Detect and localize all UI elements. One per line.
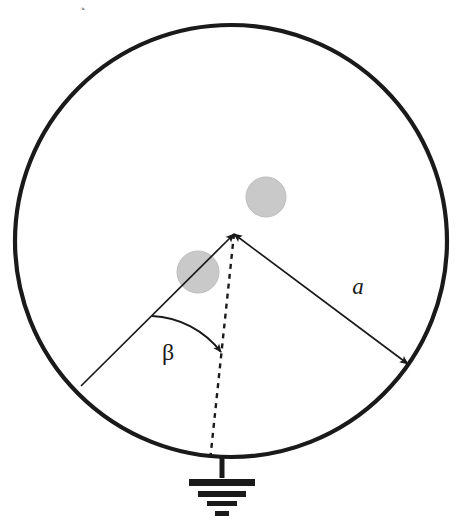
ground-bar-1 (189, 479, 255, 486)
ground-bar-2 (198, 491, 246, 497)
shaded-inclusion-lower (177, 251, 219, 293)
cropped-glyph-artifact: ◔ (79, 3, 86, 15)
shaded-inclusion-upper (246, 177, 286, 217)
figure-canvas: a β ◔ (0, 0, 467, 527)
label-radius-a: a (352, 274, 364, 299)
ground-bar-4 (215, 511, 229, 516)
geometric-diagram: a β ◔ (0, 0, 467, 527)
radius-vector-a (234, 234, 408, 364)
ground-bar-3 (207, 501, 237, 506)
ground-symbol (189, 457, 255, 516)
label-angle-beta: β (162, 339, 174, 365)
outer-boundary-circle (15, 25, 447, 457)
left-radius-vector (81, 234, 234, 386)
